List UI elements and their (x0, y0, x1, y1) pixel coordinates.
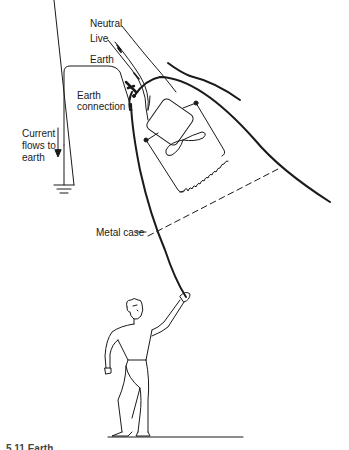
heating-coil-icon (184, 161, 228, 191)
diagram-canvas (0, 0, 349, 450)
earth-connection-clip (126, 82, 136, 92)
dashed-section-line (148, 168, 280, 236)
label-current-1: Current (22, 128, 55, 139)
fan-icon (166, 132, 205, 155)
label-earth-connection-2: connection (77, 101, 125, 112)
label-earth: Earth (90, 54, 114, 65)
figure-caption-partial: 5.11 Earth... (6, 444, 62, 450)
person-figure (105, 292, 190, 436)
appliance-circuit (144, 97, 228, 192)
metal-case-side (131, 104, 186, 297)
motor-box (145, 97, 195, 147)
label-live: Live (90, 33, 108, 44)
label-neutral: Neutral (90, 18, 122, 29)
ground-symbol-icon (54, 0, 74, 193)
label-current-2: flows to (22, 140, 56, 151)
label-current-3: earth (22, 152, 45, 163)
label-earth-connection-1: Earth (77, 90, 101, 101)
label-metal-case: Metal case (96, 227, 144, 238)
